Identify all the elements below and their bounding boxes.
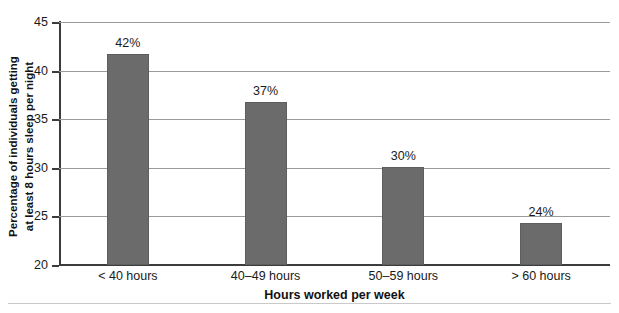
bar xyxy=(382,167,424,265)
y-axis-tick xyxy=(52,71,59,73)
bar-value-label: 30% xyxy=(363,150,443,163)
y-axis-tick xyxy=(52,119,59,121)
gridline xyxy=(59,22,610,23)
bar xyxy=(107,54,149,265)
chart-figure: Percentage of individuals getting at lea… xyxy=(0,0,619,313)
x-axis-tick-label: 50–59 hours xyxy=(333,270,473,283)
y-axis-tick-label: 45 xyxy=(8,16,48,29)
y-axis-tick-label: 20 xyxy=(8,259,48,272)
y-axis-tick xyxy=(52,22,59,24)
y-axis-tick-label: 40 xyxy=(8,65,48,78)
y-axis-line xyxy=(59,21,61,266)
bar xyxy=(245,102,287,265)
y-axis-tick xyxy=(52,216,59,218)
y-axis-tick xyxy=(52,168,59,170)
y-axis-tick-label: 35 xyxy=(8,113,48,126)
x-axis-tick-label: 40–49 hours xyxy=(196,270,336,283)
bar-value-label: 37% xyxy=(226,85,306,98)
y-axis-tick-label: 25 xyxy=(8,210,48,223)
bar-value-label: 42% xyxy=(88,37,168,50)
y-axis-title-line-1: Percentage of individuals getting xyxy=(6,17,22,277)
bar xyxy=(520,223,562,265)
y-axis-tick-label: 30 xyxy=(8,162,48,175)
x-axis-title: Hours worked per week xyxy=(59,288,610,302)
bar-value-label: 24% xyxy=(501,206,581,219)
x-axis-tick-label: > 60 hours xyxy=(471,270,611,283)
y-axis-title: Percentage of individuals getting at lea… xyxy=(6,17,37,277)
footer-divider xyxy=(8,303,611,304)
y-axis-tick xyxy=(52,265,59,267)
y-axis-title-line-2: at least 8 hours sleep per night xyxy=(22,17,38,277)
x-axis-tick-label: < 40 hours xyxy=(58,270,198,283)
